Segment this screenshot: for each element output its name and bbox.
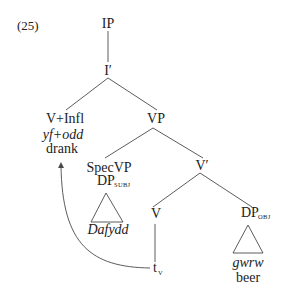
node-v-bar: V′ bbox=[195, 158, 208, 173]
v-infl-gloss: drank bbox=[46, 141, 78, 156]
dp-subj-subscript: SUBJ bbox=[114, 181, 131, 188]
dp-obj-subscript: OBJ bbox=[258, 213, 271, 220]
node-i-bar: I′ bbox=[104, 63, 112, 78]
example-number: (25) bbox=[17, 18, 39, 33]
node-ip: IP bbox=[102, 16, 115, 31]
v-infl-welsh: yf+odd bbox=[41, 127, 85, 142]
syntax-tree-figure: (25) IP I′ V+Infl yf+odd drank VP SpecVP… bbox=[0, 0, 281, 296]
edge-vbar-v bbox=[153, 173, 200, 207]
dp-obj-welsh: gwrw bbox=[232, 255, 264, 270]
trace-subscript: V bbox=[158, 269, 163, 276]
node-dp-obj: DP bbox=[241, 205, 259, 220]
dp-subj-triangle bbox=[91, 193, 123, 222]
tree-diagram: (25) IP I′ V+Infl yf+odd drank VP SpecVP… bbox=[0, 0, 281, 296]
dp-subj-welsh: Dafydd bbox=[86, 222, 129, 237]
node-vp: VP bbox=[147, 111, 165, 126]
edge-vp-specvp bbox=[105, 128, 153, 158]
node-v: V bbox=[151, 206, 161, 221]
edge-vbar-dpobj bbox=[200, 173, 252, 207]
edge-ibar-vinfl bbox=[66, 78, 108, 110]
trace-t: t bbox=[153, 260, 157, 275]
dp-obj-gloss: beer bbox=[236, 270, 260, 285]
node-dp-subj: DP bbox=[97, 173, 115, 188]
node-v-infl: V+Infl bbox=[46, 111, 84, 126]
edge-ibar-vp bbox=[108, 78, 157, 110]
dp-obj-triangle bbox=[233, 225, 263, 253]
edge-vp-vbar bbox=[153, 128, 203, 158]
